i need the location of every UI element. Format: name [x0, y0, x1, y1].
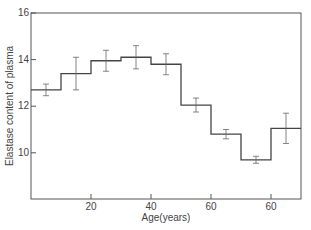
y-axis-label: Elastase content of plasma: [4, 46, 15, 167]
x-axis-ticks: 20406060: [85, 194, 277, 212]
x-tick-label: 20: [85, 201, 97, 212]
y-tick-label: 14: [18, 54, 30, 65]
y-tick-label: 12: [18, 100, 30, 111]
elastase-age-chart: 10121416 20406060 Age(years) Elastase co…: [0, 0, 311, 230]
x-tick-label: 60: [205, 201, 217, 212]
x-tick-label: 40: [145, 201, 157, 212]
error-bars: [43, 46, 289, 164]
x-tick-label: 60: [265, 201, 277, 212]
y-axis-ticks: 10121416: [18, 7, 36, 158]
y-tick-label: 10: [18, 147, 30, 158]
plot-border: [31, 13, 301, 199]
y-tick-label: 16: [18, 7, 30, 18]
x-axis-label: Age(years): [142, 212, 191, 223]
plot-frame: [31, 13, 301, 199]
